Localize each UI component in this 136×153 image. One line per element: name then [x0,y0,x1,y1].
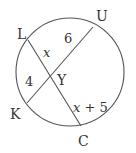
point-label-U: U [96,8,108,24]
segment-label-KY: 4 [25,74,33,89]
segment-label-YC: x + 5 [73,100,108,115]
point-label-K: K [10,106,21,122]
segment-label-YU: 6 [64,31,72,46]
point-label-C: C [78,133,89,149]
point-label-L: L [17,26,26,42]
diagram: L U K C Y x 6 4 x + 5 [0,0,136,153]
segment-label-LY: x [43,45,51,60]
point-label-Y: Y [56,72,67,88]
